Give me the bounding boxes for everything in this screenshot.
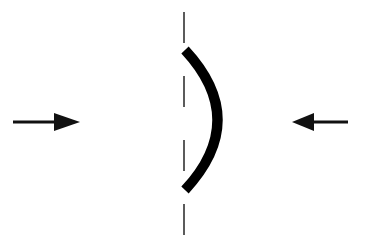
curved-mirror-arc (185, 50, 218, 190)
diagram-svg (0, 0, 366, 241)
left-arrow-icon (13, 113, 80, 131)
diagram-canvas (0, 0, 366, 241)
right-arrow-icon (292, 113, 348, 131)
